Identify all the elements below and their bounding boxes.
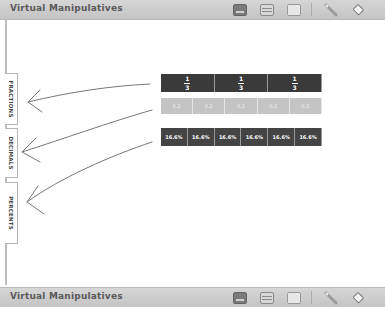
app-title: Virtual Manipulatives (10, 291, 123, 301)
denominator: 3 (293, 85, 297, 91)
decimal-tile[interactable]: 0.2 (161, 98, 193, 114)
pencil-icon[interactable] (323, 290, 339, 304)
percent-tile[interactable]: 16.6% (241, 128, 268, 146)
list-icon[interactable] (260, 292, 274, 304)
folder-icon[interactable] (287, 292, 301, 304)
bottom-toolbar: Virtual Manipulatives (0, 287, 385, 307)
percent-tile[interactable]: 16.6% (268, 128, 295, 146)
percent-tile[interactable]: 16.6% (295, 128, 322, 146)
denominator: 3 (239, 85, 243, 91)
fraction-tiles-row: 13 13 13 (161, 74, 322, 92)
fraction-tile[interactable]: 13 (215, 74, 269, 92)
fraction-tile[interactable]: 13 (268, 74, 322, 92)
numerator: 1 (293, 76, 297, 82)
decimal-tile[interactable]: 0.2 (290, 98, 322, 114)
keyboard-icon[interactable] (233, 292, 247, 304)
toolbar-divider (311, 291, 312, 304)
percent-tiles-row: 16.6% 16.6% 16.6% 16.6% 16.6% 16.6% (161, 128, 322, 146)
percent-tile[interactable]: 16.6% (188, 128, 215, 146)
denominator: 3 (185, 85, 189, 91)
decimal-tile[interactable]: 0.2 (193, 98, 225, 114)
decimal-tiles-row: 0.2 0.2 0.2 0.2 0.2 (161, 98, 322, 114)
percent-tile[interactable]: 16.6% (161, 128, 188, 146)
numerator: 1 (185, 76, 189, 82)
percent-tile[interactable]: 16.6% (215, 128, 242, 146)
decimal-tile[interactable]: 0.2 (225, 98, 257, 114)
decimal-tile[interactable]: 0.2 (258, 98, 290, 114)
eraser-icon[interactable] (350, 290, 366, 304)
numerator: 1 (239, 76, 243, 82)
fraction-tile[interactable]: 13 (161, 74, 215, 92)
